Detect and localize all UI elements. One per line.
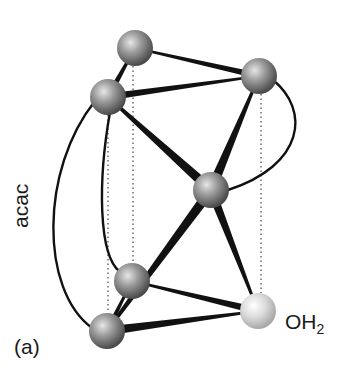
- bond-D-F: [106, 187, 215, 332]
- atom-sphere-ligand-atom-upper-right: [241, 58, 277, 94]
- atom-sphere-ligand-atom-lower-front: [89, 313, 125, 349]
- chelate-arc-right: [228, 80, 295, 190]
- atom-sphere-ligand-atom-lower-back: [114, 263, 150, 299]
- acac-label: acac: [9, 168, 33, 228]
- bond-E-G: [132, 280, 259, 314]
- atom-sphere-water-oxygen: [240, 293, 276, 329]
- atom-sphere-ligand-atom-upper-left: [90, 79, 126, 115]
- atom-sphere-ligand-atom-top-back: [117, 30, 153, 66]
- water-label-main: OH: [285, 310, 317, 333]
- water-label: OH2: [285, 310, 324, 337]
- acac-arc-outer: [53, 101, 95, 328]
- bond-B-C: [108, 75, 260, 101]
- water-label-subscript: 2: [317, 321, 325, 337]
- bond-F-G: [106, 310, 258, 336]
- bond-A-C: [135, 47, 260, 79]
- panel-label: (a): [14, 335, 40, 359]
- atom-sphere-central-metal: [193, 172, 229, 208]
- acac-arc-inner: [102, 112, 120, 272]
